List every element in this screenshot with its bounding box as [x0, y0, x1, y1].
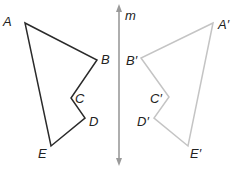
vertex-label-c: C [75, 91, 85, 106]
mirror-line-label: m [125, 8, 136, 23]
pentagon-abcde [25, 23, 97, 146]
vertex-label-b-prime: B′ [126, 53, 138, 68]
vertex-label-a-prime: A′ [217, 17, 230, 32]
arrow-up-icon [116, 4, 122, 12]
vertex-label-c-prime: C′ [150, 91, 162, 106]
reflection-diagram: m A B C D E A′ B′ C′ D′ E′ [0, 0, 240, 172]
vertex-label-a: A [2, 14, 12, 29]
vertex-label-d-prime: D′ [137, 114, 149, 129]
vertex-label-d: D [89, 114, 98, 129]
vertex-label-e: E [38, 146, 47, 161]
vertex-label-e-prime: E′ [190, 146, 202, 161]
arrow-down-icon [116, 158, 122, 166]
vertex-label-b: B [101, 52, 110, 67]
diagram-svg: m A B C D E A′ B′ C′ D′ E′ [0, 0, 240, 172]
pentagon-image-a-prime [141, 23, 213, 146]
